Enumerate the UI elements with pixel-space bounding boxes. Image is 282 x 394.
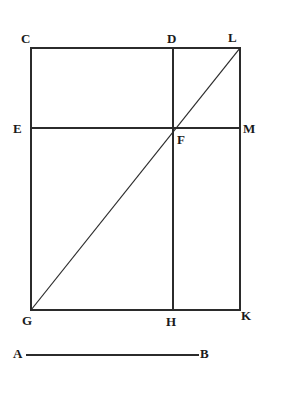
vertex-label-l: L bbox=[228, 31, 237, 44]
vertex-label-f: F bbox=[177, 133, 185, 146]
vertex-label-k: K bbox=[241, 309, 251, 322]
geometry-figure bbox=[0, 0, 282, 394]
vertex-label-e: E bbox=[13, 122, 22, 135]
vertex-label-m: M bbox=[243, 122, 255, 135]
figure-root: C D L E F M G H K A B bbox=[0, 0, 282, 394]
vertex-label-h: H bbox=[166, 315, 176, 328]
vertex-label-b: B bbox=[200, 347, 209, 360]
vertex-label-d: D bbox=[167, 32, 176, 45]
vertex-label-g: G bbox=[22, 314, 32, 327]
vertex-label-c: C bbox=[21, 32, 30, 45]
vertex-label-a: A bbox=[13, 347, 22, 360]
